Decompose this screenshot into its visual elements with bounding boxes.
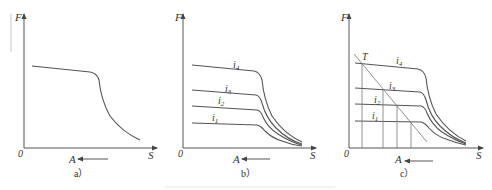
curve-i1 xyxy=(355,121,466,145)
panel-b: F 0 S A b） i4 i3 i2 i1 xyxy=(174,11,316,179)
x-axis-label: S xyxy=(310,149,316,161)
origin-label: 0 xyxy=(18,148,23,159)
curve-label-i3: i3 xyxy=(389,80,396,93)
curve-i1 xyxy=(192,123,302,146)
figure-caption-faint xyxy=(165,186,335,188)
curve-label-i4: i4 xyxy=(233,59,240,72)
origin-label: 0 xyxy=(344,148,349,159)
panel-caption: b） xyxy=(241,168,256,179)
x-axis-label: S xyxy=(476,149,482,161)
y-axis-label: F xyxy=(340,11,348,23)
curve-i3 xyxy=(192,90,302,144)
curve-label-i1: i1 xyxy=(212,112,218,125)
curve-label-i3: i3 xyxy=(225,83,232,96)
direction-label: A xyxy=(68,153,76,165)
force-stroke-diagram: F 0 S A a） F 0 S A b） i4 i3 i2 i1 F 0 S … xyxy=(0,0,492,190)
panel-caption: c） xyxy=(400,168,414,179)
panel-c: F 0 S A c） T i4 i3 i2 i1 xyxy=(340,11,483,179)
y-axis-label: F xyxy=(14,11,22,23)
force-curve xyxy=(32,66,140,140)
panel-a: F 0 S A a） xyxy=(14,11,157,179)
x-axis-label: S xyxy=(148,149,154,161)
y-axis-label: F xyxy=(174,11,182,23)
load-line xyxy=(354,54,427,142)
direction-label: A xyxy=(232,153,240,165)
curve-label-i2: i2 xyxy=(218,95,225,108)
direction-label: A xyxy=(394,153,402,165)
curve-label-i4: i4 xyxy=(396,55,403,68)
origin-label: 0 xyxy=(178,148,183,159)
panel-caption: a） xyxy=(74,168,88,179)
point-label-t: T xyxy=(362,51,369,62)
curve-i2 xyxy=(192,106,302,145)
curve-i4 xyxy=(192,65,302,142)
